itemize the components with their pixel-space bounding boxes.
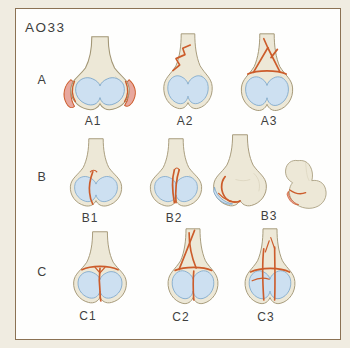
femur-frontal-multifragmentary-icon (231, 33, 303, 115)
label-a3: A3 (252, 114, 286, 128)
label-b3: B3 (252, 209, 286, 223)
femur-frontal-t-shaped-icon (63, 231, 137, 307)
label-b2: B2 (157, 211, 191, 225)
label-c1: C1 (71, 309, 105, 323)
label-b1: B1 (73, 211, 107, 225)
femur-frontal-avulsion-icon (59, 36, 141, 114)
femur-frontal-coronal-icon (203, 134, 277, 210)
femur-frontal-sagittal-condyle-icon (60, 138, 132, 210)
row-label-b: B (31, 170, 53, 184)
ao33-classification-diagram: AO33 A B C (0, 0, 350, 348)
femur-frontal-simple-oblique-icon (154, 33, 222, 113)
femur-frontal-sagittal-central-icon (140, 138, 212, 210)
femur-lateral-coronal-icon (276, 152, 338, 212)
femur-frontal-complete-multifragmentary-icon (235, 228, 305, 308)
diagram-title: AO33 (25, 20, 66, 35)
label-c3: C3 (249, 310, 283, 324)
row-label-a: A (31, 73, 53, 87)
row-label-c: C (31, 265, 53, 279)
femur-frontal-t-shaft-wedge-icon (158, 228, 228, 308)
label-c2: C2 (164, 310, 198, 324)
label-a2: A2 (168, 114, 202, 128)
label-a1: A1 (76, 114, 110, 128)
